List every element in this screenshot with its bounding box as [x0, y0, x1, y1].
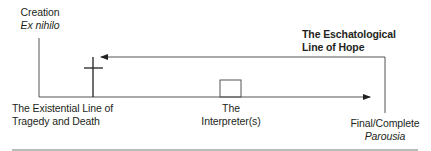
creation-title: Creation — [10, 6, 70, 19]
existential-line1: The Existential Line of — [12, 102, 113, 115]
final-line2: Parousia — [345, 130, 425, 143]
existential-line2: Tragedy and Death — [12, 115, 113, 128]
creation-subtitle: Ex nihilo — [10, 19, 70, 32]
final-label: Final/Complete Parousia — [345, 117, 425, 143]
eschatological-label: The Eschatological Line of Hope — [302, 28, 396, 54]
interpreter-box — [220, 80, 241, 97]
interpreter-line2: Interpreter(s) — [195, 115, 267, 128]
eschatological-line1: The Eschatological — [302, 28, 396, 41]
final-line1: Final/Complete — [345, 117, 425, 130]
eschatological-line2: Line of Hope — [302, 41, 396, 54]
creation-label: Creation Ex nihilo — [10, 6, 70, 32]
interpreter-label: The Interpreter(s) — [195, 102, 267, 128]
interpreter-line1: The — [195, 102, 267, 115]
existential-label: The Existential Line of Tragedy and Deat… — [12, 102, 113, 128]
